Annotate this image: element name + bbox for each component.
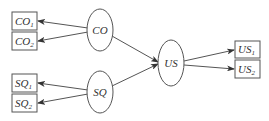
node-sq: SQ (87, 71, 113, 113)
node-sq-label: SQ (93, 86, 107, 98)
edge-co-co1 (38, 21, 88, 28)
node-sq2-label: SQ (15, 97, 29, 109)
diagram-canvas: CO SQ US CO1 CO2 SQ1 SQ2 US1 US2 (0, 0, 269, 121)
diagram-svg: CO SQ US CO1 CO2 SQ1 SQ2 US1 US2 (0, 0, 269, 121)
node-us2-label: US (238, 63, 252, 75)
edge-us-us1 (184, 50, 234, 61)
node-co1-label: CO (15, 15, 30, 27)
edge-co-us (112, 36, 158, 62)
node-co1: CO1 (12, 12, 37, 30)
edge-co-co2 (38, 32, 88, 41)
node-sq1-subscript: 1 (28, 83, 32, 91)
node-co-label: CO (92, 24, 107, 36)
node-sq1: SQ1 (12, 74, 37, 92)
node-sq2-subscript: 2 (28, 103, 32, 111)
node-co2: CO2 (12, 32, 37, 50)
node-co: CO (87, 9, 113, 51)
node-us1-label: US (238, 43, 252, 55)
node-co2-label: CO (15, 35, 30, 47)
edges (38, 21, 234, 103)
edge-sq-sq2 (38, 94, 88, 103)
node-us: US (158, 40, 184, 86)
node-us1: US1 (235, 41, 260, 58)
node-co1-subscript: 1 (30, 21, 34, 29)
node-us1-subscript: 1 (251, 49, 255, 57)
node-sq2: SQ2 (12, 94, 37, 112)
edge-sq-us (112, 64, 158, 86)
node-sq1-label: SQ (15, 77, 29, 89)
node-us-label: US (164, 57, 178, 69)
node-us2: US2 (235, 60, 260, 78)
node-us2-subscript: 2 (251, 69, 255, 77)
edge-sq-sq1 (38, 83, 88, 90)
node-co2-subscript: 2 (30, 41, 34, 49)
edge-us-us2 (184, 65, 234, 69)
